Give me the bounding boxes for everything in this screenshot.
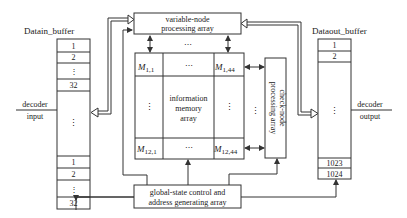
- svg-text:decoder: decoder: [22, 100, 48, 109]
- datain-buffer-title: Datain_buffer: [24, 26, 74, 36]
- svg-text:⋮: ⋮: [145, 102, 154, 112]
- information-memory-array: M1,1 ⋯ M1,44 ⋮ information memory array …: [135, 53, 244, 159]
- dataout-cell: 1: [333, 41, 337, 50]
- svg-text:⋮: ⋮: [225, 102, 234, 112]
- datain-cell: 2: [72, 170, 76, 179]
- svg-text:variable-node: variable-node: [166, 15, 210, 24]
- between-dots: ⋯: [184, 40, 192, 49]
- decoder-output-label: decoder output: [351, 100, 392, 121]
- architecture-diagram: Datain_buffer 1 2 ⋮ 32 ⋮ 1 2 ⋮ 32 decode…: [0, 0, 407, 218]
- datain-cell: 1: [72, 42, 76, 51]
- svg-text:⋯: ⋯: [185, 143, 193, 152]
- svg-text:⋮: ⋮: [251, 106, 260, 116]
- dataout-cell: 1023: [327, 159, 343, 168]
- svg-text:information: information: [170, 94, 208, 103]
- check-node-processing-array: check-node processing array: [265, 58, 287, 158]
- svg-text:processing array: processing array: [161, 24, 214, 33]
- svg-text:⋯: ⋯: [185, 61, 193, 70]
- svg-text:array: array: [180, 114, 196, 123]
- svg-text:processing array: processing array: [269, 82, 278, 135]
- dataout-cell: 1024: [327, 170, 343, 179]
- datain-cell: 2: [72, 53, 76, 62]
- datain-cell: ⋮: [70, 185, 78, 194]
- dataout-buffer-title: Dataout_buffer: [312, 26, 367, 36]
- datain-cell: 32: [70, 81, 78, 90]
- dataout-cell: 2: [333, 52, 337, 61]
- svg-text:check-node: check-node: [278, 90, 287, 127]
- datain-middle-dots: ⋮: [69, 118, 78, 128]
- global-state-control-array: global-state control and address generat…: [134, 185, 241, 208]
- svg-text:memory: memory: [175, 104, 202, 113]
- variable-node-processing-array: variable-node processing array: [134, 13, 241, 34]
- svg-text:input: input: [27, 112, 44, 121]
- dataout-middle-dots: ⋮: [330, 106, 339, 116]
- decoder-input-label: decoder input: [16, 100, 57, 121]
- svg-text:output: output: [360, 112, 381, 121]
- svg-text:address generating array: address generating array: [148, 198, 226, 207]
- datain-cell: 1: [72, 158, 76, 167]
- svg-text:decoder: decoder: [357, 100, 383, 109]
- datain-cell: ⋮: [70, 67, 78, 76]
- svg-text:global-state control and: global-state control and: [150, 188, 226, 197]
